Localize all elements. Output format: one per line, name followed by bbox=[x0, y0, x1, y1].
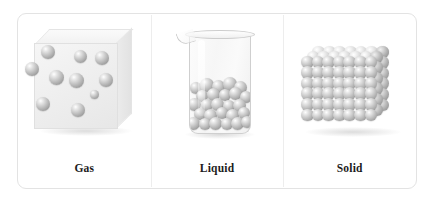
caption-solid: Solid bbox=[337, 163, 363, 189]
states-of-matter-figure: Gas Liquid Solid bbox=[17, 13, 417, 189]
gas-cube-right-face bbox=[116, 28, 132, 129]
gas-particle bbox=[71, 103, 85, 117]
beaker-glass bbox=[189, 34, 251, 134]
liquid-illustration bbox=[151, 14, 284, 163]
gas-particle bbox=[90, 90, 99, 99]
liquid-particle bbox=[241, 116, 251, 128]
solid-particle bbox=[365, 109, 378, 122]
gas-illustration bbox=[18, 14, 151, 163]
beaker-gloss-highlight bbox=[198, 40, 205, 116]
gas-particle bbox=[49, 70, 64, 85]
solid-lattice-shadow bbox=[305, 127, 401, 137]
caption-liquid: Liquid bbox=[200, 163, 234, 189]
caption-gas: Gas bbox=[74, 163, 94, 189]
gas-particle bbox=[95, 51, 109, 65]
gas-particle bbox=[25, 62, 39, 76]
gas-particle bbox=[74, 50, 87, 63]
panel-liquid: Liquid bbox=[151, 14, 284, 188]
gas-particle bbox=[41, 45, 55, 59]
gas-particle bbox=[69, 73, 84, 88]
gas-particle bbox=[99, 73, 113, 87]
panel-gas: Gas bbox=[18, 14, 151, 188]
panel-solid: Solid bbox=[283, 14, 416, 188]
gas-particle bbox=[36, 97, 50, 111]
solid-illustration bbox=[283, 14, 416, 163]
